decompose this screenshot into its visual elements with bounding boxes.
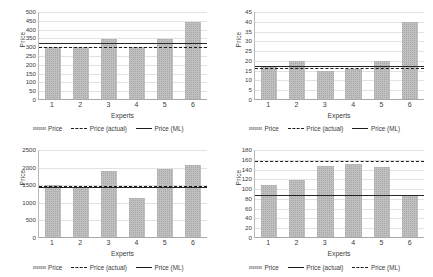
y-tick-label: 500 <box>26 9 36 15</box>
chart-panel-bottom-right: Price 020406080100120140160180 123456 Ex… <box>216 138 433 277</box>
legend-item[interactable]: Price (actual) <box>71 264 127 271</box>
x-axis-line <box>39 99 207 100</box>
y-tick-label: 10 <box>245 77 252 83</box>
bar[interactable] <box>374 167 390 238</box>
legend-item[interactable]: Price (ML) <box>352 125 400 132</box>
bar-slot <box>283 12 311 100</box>
legend-swatch-bar-icon <box>249 266 262 269</box>
legend-label: Price (ML) <box>154 125 183 132</box>
x-axis-label: Experts <box>254 250 424 257</box>
bar[interactable] <box>402 22 418 100</box>
legend-swatch-dashed-icon <box>288 128 304 129</box>
x-axis-line <box>255 237 424 238</box>
legend-swatch-bar-icon <box>249 127 262 130</box>
legend-item[interactable]: Price <box>33 125 63 132</box>
reference-line-ml <box>39 43 207 44</box>
legend-swatch-bar-icon <box>33 266 46 269</box>
bar-slot <box>340 12 368 100</box>
y-tick-label: 0 <box>33 97 36 103</box>
bar[interactable] <box>73 187 89 238</box>
plot-area <box>254 150 424 238</box>
y-tick-label: 5 <box>249 87 252 93</box>
y-tick-label: 35 <box>245 28 252 34</box>
bar[interactable] <box>317 166 333 238</box>
y-tick-label: 150 <box>26 70 36 76</box>
legend-label: Price (ML) <box>154 264 183 271</box>
bar[interactable] <box>185 165 201 238</box>
bar[interactable] <box>261 185 277 238</box>
chart-panel-top-right: Price 051015202530354045 123456 Experts … <box>216 0 433 138</box>
legend-swatch-solid-icon <box>288 267 304 268</box>
bar[interactable] <box>345 164 361 238</box>
legend-item[interactable]: Price <box>249 125 279 132</box>
bar[interactable] <box>73 47 89 100</box>
legend-label: Price (actual) <box>306 125 343 132</box>
bar[interactable] <box>402 195 418 238</box>
bar[interactable] <box>101 39 117 100</box>
y-tick-label: 100 <box>26 79 36 85</box>
bar[interactable] <box>129 47 145 100</box>
bar[interactable] <box>345 69 361 100</box>
x-axis-label: Experts <box>38 250 207 257</box>
bar-slot <box>67 150 95 238</box>
bar[interactable] <box>129 198 145 238</box>
reference-line-actual <box>39 47 207 48</box>
bar[interactable] <box>45 185 61 238</box>
reference-line-actual <box>255 195 424 196</box>
bar-slot <box>368 12 396 100</box>
y-tick-label: 20 <box>245 225 252 231</box>
bar-slot <box>255 12 283 100</box>
legend-swatch-dashed-icon <box>71 267 87 268</box>
y-tick-label: 1000 <box>22 200 36 206</box>
y-axis-ticks: 020406080100120140160180 <box>224 150 252 238</box>
legend-item[interactable]: Price (ML) <box>352 264 400 271</box>
bar[interactable] <box>101 171 117 238</box>
legend-item[interactable]: Price <box>33 264 63 271</box>
y-tick-label: 160 <box>242 157 252 163</box>
legend-item[interactable]: Price (ML) <box>136 125 184 132</box>
bar[interactable] <box>317 71 333 100</box>
legend-label: Price <box>265 125 279 132</box>
bar[interactable] <box>261 67 277 100</box>
chart-legend: PricePrice (actual)Price (ML) <box>216 125 433 132</box>
y-axis-ticks: 050100150200250300350400450500 <box>8 12 36 100</box>
bar-slot <box>95 150 123 238</box>
legend-item[interactable]: Price <box>249 264 279 271</box>
bar[interactable] <box>289 180 305 238</box>
chart-panel-bottom-left: Price 05001000150020002500 123456 Expert… <box>0 138 216 277</box>
y-tick-label: 250 <box>26 53 36 59</box>
chart-legend: PricePrice (actual)Price (ML) <box>216 264 433 271</box>
legend-label: Price (ML) <box>371 125 400 132</box>
bar[interactable] <box>185 22 201 100</box>
bar-slot <box>67 12 95 100</box>
bar[interactable] <box>157 39 173 100</box>
bar[interactable] <box>45 47 61 100</box>
y-tick-label: 0 <box>249 235 252 241</box>
bar-slot <box>39 150 67 238</box>
bar[interactable] <box>157 169 173 238</box>
legend-swatch-dashed-icon <box>71 128 87 129</box>
legend-label: Price <box>48 264 62 271</box>
y-tick-label: 20 <box>245 58 252 64</box>
legend-item[interactable]: Price (ML) <box>136 264 184 271</box>
legend-item[interactable]: Price (actual) <box>71 125 127 132</box>
plot-area <box>38 12 207 100</box>
plot-area <box>38 150 207 238</box>
y-tick-label: 15 <box>245 68 252 74</box>
y-tick-label: 30 <box>245 38 252 44</box>
y-tick-label: 25 <box>245 48 252 54</box>
y-tick-label: 0 <box>249 97 252 103</box>
bar-slot <box>151 150 179 238</box>
y-tick-label: 300 <box>26 44 36 50</box>
y-tick-label: 2000 <box>22 164 36 170</box>
legend-label: Price (actual) <box>90 264 127 271</box>
legend-swatch-solid-icon <box>352 128 368 129</box>
y-axis-ticks: 051015202530354045 <box>224 12 252 100</box>
y-tick-label: 450 <box>26 18 36 24</box>
legend-label: Price (ML) <box>371 264 400 271</box>
chart-legend: PricePrice (actual)Price (ML) <box>0 125 216 132</box>
legend-label: Price (actual) <box>306 264 343 271</box>
legend-item[interactable]: Price (actual) <box>288 264 344 271</box>
legend-item[interactable]: Price (actual) <box>288 125 344 132</box>
reference-line-actual <box>255 68 424 69</box>
